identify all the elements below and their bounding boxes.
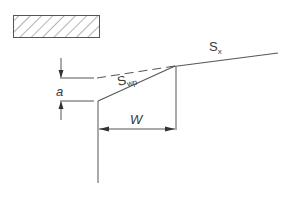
hatched-block [14, 16, 100, 38]
label-sx-sub: x [218, 47, 222, 56]
label-a: a [56, 85, 63, 98]
label-w: W [130, 113, 142, 126]
dimension-w [99, 127, 175, 132]
label-swp: Swp [116, 71, 137, 88]
diagram-canvas [0, 0, 298, 200]
label-sx-main: S [209, 39, 218, 54]
label-sx: Sx [209, 40, 222, 53]
arrow-down-icon [59, 70, 64, 78]
arrow-left-icon [99, 127, 109, 132]
sx-line [170, 53, 278, 67]
dashed-extension-line [97, 66, 175, 78]
arrow-right-icon [165, 127, 175, 132]
arrow-up-icon [59, 101, 64, 109]
dimension-a [59, 58, 95, 120]
